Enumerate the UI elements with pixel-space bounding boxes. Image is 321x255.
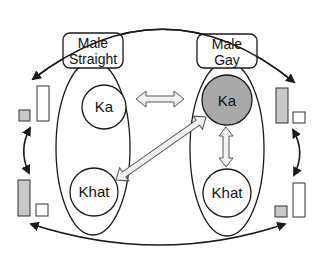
ka-ka-double-arrow	[136, 91, 184, 107]
ka-khat-vertical-double-arrow	[219, 127, 233, 167]
left-curved-double-arrow	[24, 128, 30, 173]
male-gay-label-line2: Gay	[214, 52, 240, 68]
ka-khat-diagram: Male Straight Male Gay Ka Khat Ka Khat	[0, 0, 321, 255]
bar-pair-right-top	[276, 88, 305, 123]
node-label: Khat	[212, 184, 244, 201]
male-straight-label-line2: Straight	[69, 51, 117, 67]
node-label: Ka	[95, 98, 114, 115]
bar-pair-left-bottom	[18, 180, 48, 216]
male-straight-khat-node: Khat	[70, 168, 118, 216]
khat-ka-diagonal-double-arrow	[111, 110, 210, 186]
bar-pair-right-bottom	[275, 183, 305, 217]
male-gay-ka-node: Ka	[202, 75, 252, 125]
male-straight-ka-node: Ka	[82, 85, 126, 129]
bottom-curved-arrow	[31, 224, 285, 245]
node-label: Ka	[218, 92, 237, 109]
right-curved-double-arrow	[293, 130, 300, 175]
node-label: Khat	[79, 183, 111, 200]
bar-pair-left-top	[19, 86, 49, 121]
male-straight-label: Male Straight	[63, 33, 123, 68]
male-gay-khat-node: Khat	[203, 169, 251, 217]
